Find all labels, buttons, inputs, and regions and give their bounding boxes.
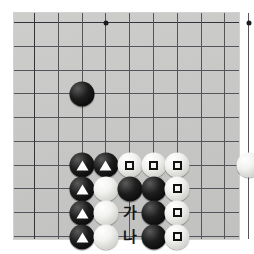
square-mark-icon <box>149 161 158 170</box>
grid-line-horizontal <box>14 93 239 94</box>
stone-white-square-marked[interactable] <box>165 224 190 249</box>
grid-line-horizontal <box>14 22 239 23</box>
grid-line-vertical <box>248 13 249 239</box>
stone-black[interactable] <box>70 81 95 106</box>
square-mark-icon <box>173 184 182 193</box>
stone-black-triangle-marked[interactable] <box>70 176 95 201</box>
label-na[interactable]: 나 <box>123 229 137 244</box>
grid-line-vertical <box>224 13 225 239</box>
stone-black[interactable] <box>141 200 166 225</box>
stone-white-square-marked[interactable] <box>165 176 190 201</box>
triangle-mark-icon <box>76 185 88 195</box>
stone-black[interactable] <box>141 176 166 201</box>
stone-black-triangle-marked[interactable] <box>70 224 95 249</box>
stone-white[interactable] <box>93 224 118 249</box>
grid-line-vertical <box>58 13 59 239</box>
stone-white-square-marked[interactable] <box>165 153 190 178</box>
stone-black[interactable] <box>141 224 166 249</box>
stone-white-square-marked[interactable] <box>117 153 142 178</box>
stone-white[interactable] <box>236 153 254 178</box>
triangle-mark-icon <box>76 161 88 171</box>
go-diagram-screenshot: 가나 <box>0 0 254 254</box>
triangle-mark-icon <box>100 161 112 171</box>
square-mark-icon <box>173 208 182 217</box>
square-mark-icon <box>173 232 182 241</box>
grid-line-horizontal <box>14 46 239 47</box>
grid-line-horizontal <box>14 141 239 142</box>
stone-white[interactable] <box>93 176 118 201</box>
star-point <box>246 20 251 25</box>
grid-line-horizontal <box>14 70 239 71</box>
stone-black-triangle-marked[interactable] <box>93 153 118 178</box>
square-mark-icon <box>173 161 182 170</box>
star-point <box>103 20 108 25</box>
grid-line-vertical <box>201 13 202 239</box>
stone-white-square-marked[interactable] <box>141 153 166 178</box>
stone-black[interactable] <box>117 176 142 201</box>
stone-black-triangle-marked[interactable] <box>70 153 95 178</box>
stone-white[interactable] <box>93 200 118 225</box>
stone-black-triangle-marked[interactable] <box>70 200 95 225</box>
grid-line-horizontal <box>14 117 239 118</box>
square-mark-icon <box>125 161 134 170</box>
label-ga[interactable]: 가 <box>123 205 137 220</box>
grid-line-vertical <box>34 13 35 239</box>
triangle-mark-icon <box>76 208 88 218</box>
stone-white-square-marked[interactable] <box>165 200 190 225</box>
triangle-mark-icon <box>76 232 88 242</box>
